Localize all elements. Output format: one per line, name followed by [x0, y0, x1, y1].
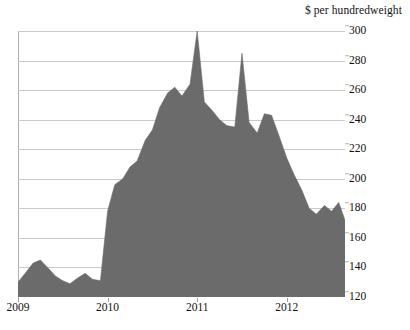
- y-axis-tick-labels: 120140160180200220240260280300: [349, 31, 389, 297]
- y-tick-dash: [345, 203, 349, 204]
- x-tick-label-2010: 2010: [96, 302, 119, 314]
- x-axis-tick-labels: 2009201020112012: [0, 302, 410, 322]
- chart-title: $ per hundredweight: [305, 4, 402, 16]
- x-tick-mark-2012: [287, 298, 288, 302]
- y-tick-dash: [345, 262, 349, 263]
- y-tick-label-180: 180: [349, 203, 366, 215]
- y-tick-label-240: 240: [349, 114, 366, 126]
- y-tick-dash: [345, 55, 349, 56]
- area-series: [18, 31, 345, 297]
- y-tick-label-280: 280: [349, 55, 366, 67]
- y-tick-label-140: 140: [349, 262, 366, 274]
- y-tick-label-160: 160: [349, 232, 366, 244]
- price-area-chart: $ per hundredweight 12014016018020022024…: [0, 0, 410, 330]
- y-tick-dash: [345, 291, 349, 292]
- y-tick-dash: [345, 25, 349, 26]
- y-tick-dash: [345, 232, 349, 233]
- y-tick-dash: [345, 143, 349, 144]
- x-tick-label-2012: 2012: [275, 302, 298, 314]
- x-tick-mark-2011: [197, 298, 198, 302]
- y-tick-label-220: 220: [349, 143, 366, 155]
- y-tick-dash: [345, 84, 349, 85]
- area-series-path: [18, 31, 345, 297]
- x-tick-label-2009: 2009: [7, 302, 30, 314]
- x-tick-mark-2010: [108, 298, 109, 302]
- plot-area: [18, 31, 345, 297]
- x-tick-label-2011: 2011: [186, 302, 209, 314]
- y-tick-label-200: 200: [349, 173, 366, 185]
- x-tick-mark-2009: [18, 298, 19, 302]
- y-tick-label-260: 260: [349, 84, 366, 96]
- y-tick-label-300: 300: [349, 25, 366, 37]
- y-tick-dash: [345, 173, 349, 174]
- y-tick-dash: [345, 114, 349, 115]
